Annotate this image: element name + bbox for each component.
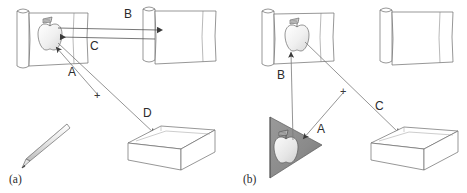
arrow-D-line bbox=[58, 43, 155, 134]
panel-b-open-box[interactable] bbox=[371, 127, 458, 170]
panel-a-scroll-right-empty[interactable] bbox=[143, 7, 216, 64]
arrow-A-label: A bbox=[68, 65, 76, 79]
panel-a-scroll-left-with-apple[interactable] bbox=[17, 9, 88, 68]
panel-b-caption: (b) bbox=[243, 173, 257, 186]
scroll-sheet bbox=[155, 11, 216, 64]
scroll-sheet bbox=[392, 12, 453, 65]
scroll-roll bbox=[262, 9, 274, 66]
arrow-B-label: B bbox=[277, 68, 285, 82]
panel-b-scroll-left-with-apple[interactable] bbox=[262, 9, 334, 66]
arrow-B-line bbox=[291, 52, 293, 140]
panel-b: B A C + (b) bbox=[243, 8, 458, 186]
scroll-roll bbox=[380, 8, 392, 63]
panel-a: B C A D + bbox=[9, 7, 216, 186]
arrow-A-label: A bbox=[317, 122, 325, 136]
arrow-C-label: C bbox=[90, 39, 99, 53]
figure-canvas: B C A D + bbox=[0, 0, 467, 193]
apple-body bbox=[285, 25, 309, 51]
scroll-roll bbox=[17, 9, 29, 68]
scroll-roll bbox=[143, 7, 155, 62]
panel-b-arrow-A[interactable]: A bbox=[303, 93, 343, 139]
arrow-C-label: C bbox=[375, 99, 384, 113]
pencil-body bbox=[26, 124, 70, 161]
panel-a-caption: (a) bbox=[9, 173, 22, 186]
panel-a-plus-marker: + bbox=[94, 89, 100, 101]
panel-b-plus-marker: + bbox=[340, 85, 346, 97]
apple-body bbox=[274, 137, 298, 163]
panel-b-scroll-right-empty[interactable] bbox=[380, 8, 453, 65]
arrow-D-label: D bbox=[143, 106, 152, 120]
pencil-edge bbox=[26, 124, 67, 159]
panel-a-arrow-D[interactable]: D bbox=[58, 43, 155, 134]
panel-a-pencil[interactable] bbox=[22, 124, 70, 168]
panel-a-open-box[interactable] bbox=[128, 126, 215, 170]
arrow-B-label: B bbox=[124, 7, 132, 21]
